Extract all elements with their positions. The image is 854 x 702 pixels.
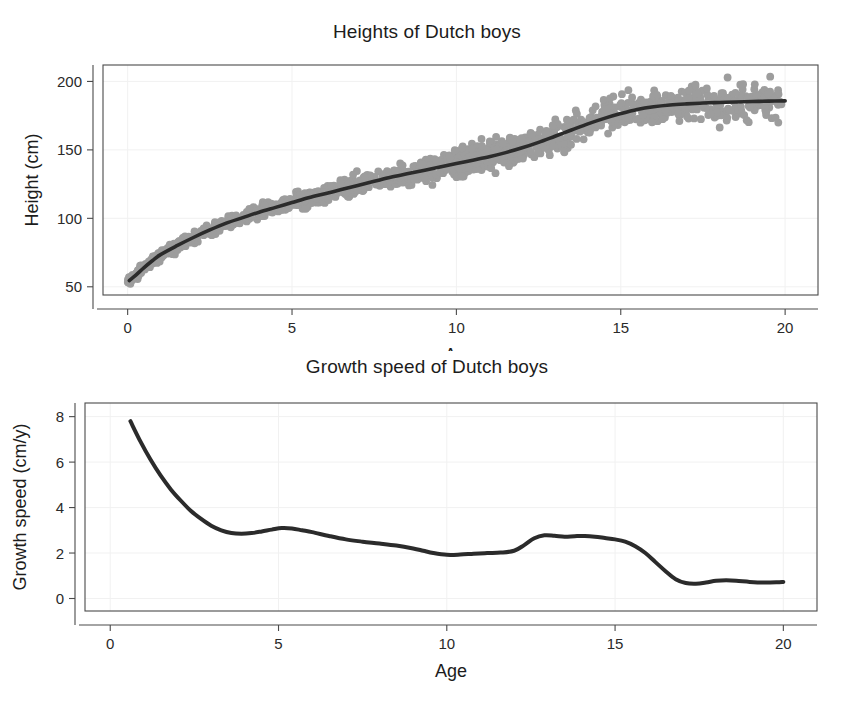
scatter-point: [725, 105, 733, 113]
scatter-point: [746, 104, 754, 112]
y-tick-label: 100: [57, 210, 82, 227]
scatter-point: [419, 160, 427, 168]
scatter-point: [327, 182, 335, 190]
y-tick-label: 50: [65, 278, 82, 295]
growth-plot-svg: 0510152002468AgeGrowth speed (cm/y): [0, 345, 854, 702]
scatter-point: [762, 108, 770, 116]
scatter-point: [685, 94, 693, 102]
y-axis-title: Growth speed (cm/y): [10, 423, 30, 590]
y-tick-label: 200: [57, 73, 82, 90]
scatter-point: [518, 134, 526, 142]
scatter-point: [573, 135, 581, 143]
scatter-point: [723, 114, 731, 122]
scatter-point: [436, 169, 444, 177]
scatter-point: [719, 89, 727, 97]
y-tick-label: 4: [56, 499, 64, 516]
scatter-point: [618, 90, 626, 98]
y-axis-ticks: 02468: [56, 408, 75, 607]
scatter-point: [625, 114, 633, 122]
scatter-point: [639, 111, 647, 119]
scatter-point: [772, 114, 780, 122]
plot-area-border: [85, 403, 817, 611]
scatter-point: [618, 99, 626, 107]
x-tick-label: 5: [274, 635, 282, 652]
x-tick-label: 20: [775, 635, 792, 652]
scatter-point: [411, 175, 419, 183]
panel-growth: Growth speed of Dutch boys 0510152002468…: [0, 345, 854, 702]
scatter-point: [766, 73, 774, 81]
scatter-point: [716, 124, 724, 132]
scatter-point: [625, 86, 633, 94]
gridlines: [85, 403, 817, 611]
x-tick-label: 5: [288, 319, 296, 336]
scatter-point: [629, 100, 637, 108]
scatter-point: [208, 231, 216, 239]
scatter-point: [468, 145, 476, 153]
scatter-point: [534, 148, 542, 156]
x-axis-ticks: 05101520: [106, 625, 792, 652]
figure-canvas: Heights of Dutch boys 051015205010015020…: [0, 0, 854, 702]
y-axis-title: Height (cm): [22, 133, 42, 226]
x-tick-label: 10: [438, 635, 455, 652]
scatter-point: [505, 162, 513, 170]
scatter-point: [560, 140, 568, 148]
scatter-point: [694, 90, 702, 98]
scatter-point: [628, 94, 636, 102]
scatter-point: [465, 164, 473, 172]
scatter-point: [349, 171, 357, 179]
scatter-point: [563, 116, 571, 124]
y-axis-ticks: 50100150200: [57, 73, 93, 295]
scatter-point: [641, 99, 649, 107]
scatter-point: [567, 141, 575, 149]
x-tick-label: 0: [106, 635, 114, 652]
scatter-point: [764, 90, 772, 98]
scatter-point: [692, 81, 700, 89]
scatter-point: [703, 85, 711, 93]
scatter-point: [739, 80, 747, 88]
scatter-point: [302, 205, 310, 213]
x-tick-label: 10: [448, 319, 465, 336]
y-tick-label: 6: [56, 454, 64, 471]
scatter-point: [653, 91, 661, 99]
y-tick-label: 150: [57, 141, 82, 158]
scatter-point: [478, 142, 486, 150]
scatter-point: [667, 92, 675, 100]
x-tick-label: 0: [123, 319, 131, 336]
x-axis-ticks: 05101520: [123, 309, 793, 336]
x-axis-title: Age: [435, 661, 467, 681]
scatter-point: [592, 102, 600, 110]
scatter-point: [724, 74, 732, 82]
scatter-point: [710, 92, 718, 100]
scatter-point: [399, 161, 407, 169]
scatter-point: [745, 118, 753, 126]
scatter-point: [421, 173, 429, 181]
scatter-point: [499, 140, 507, 148]
scatter-point: [527, 148, 535, 156]
x-tick-label: 15: [612, 319, 629, 336]
scatter-point: [648, 118, 656, 126]
scatter-point: [541, 130, 549, 138]
scatter-point: [707, 110, 715, 118]
scatter-point: [324, 195, 332, 203]
scatter-point: [737, 103, 745, 111]
scatter-point: [458, 173, 466, 181]
scatter-point: [690, 115, 698, 123]
scatter-point: [685, 87, 693, 95]
growth-speed-curve: [130, 421, 783, 584]
x-tick-label: 15: [607, 635, 624, 652]
scatter-point: [492, 133, 500, 141]
scatter-point: [560, 148, 568, 156]
scatter-point: [674, 110, 682, 118]
scatter-point: [732, 89, 740, 97]
heights-plot-svg: 0510152050100150200AgeHeight (cm): [0, 0, 854, 351]
scatter-point: [606, 94, 614, 102]
scatter-point: [697, 115, 705, 123]
scatter-point: [751, 80, 759, 88]
panel-heights: Heights of Dutch boys 051015205010015020…: [0, 0, 854, 351]
y-tick-label: 0: [56, 590, 64, 607]
scatter-point: [659, 115, 667, 123]
scatter-point: [549, 122, 557, 130]
scatter-point: [509, 138, 517, 146]
y-tick-label: 8: [56, 408, 64, 425]
scatter-point: [478, 135, 486, 143]
